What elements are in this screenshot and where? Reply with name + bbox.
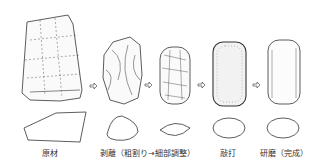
right-arrow-icon [145,82,152,88]
detail-flaked-stone-drawing [160,47,190,104]
stone-axe-process-diagram [0,0,322,165]
flaked-cross-section [107,116,138,140]
stage-label-pecking: 敲打 [220,149,236,159]
stage-label-grinding: 研磨（完成） [260,149,308,159]
right-arrow-icon [253,82,260,88]
right-arrow-icon [198,82,205,88]
raw-stone-drawing [22,15,82,101]
stage-label-raw: 原材 [42,149,58,159]
pecked-stone-drawing [213,42,246,106]
ground-stone-drawing [268,40,300,104]
raw-cross-section [24,112,86,142]
stage-label-flaking: 剥離（粗割り→細部調整） [100,149,195,159]
ground-cross-section [267,118,299,138]
pecked-cross-section [213,118,245,138]
right-arrow-icon [90,83,97,89]
flaked-stone-drawing [103,37,142,104]
detail-flaked-cross-section [160,123,190,135]
